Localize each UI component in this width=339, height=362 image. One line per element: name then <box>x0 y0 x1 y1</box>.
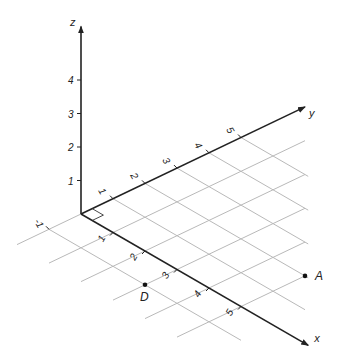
y-tick--1 <box>46 226 49 229</box>
diagram-canvas: xyz 12345-1123451234 AD <box>0 0 339 362</box>
grid-line-y-2 <box>145 183 308 277</box>
z-tick-label-4: 4 <box>68 75 74 86</box>
z-axis-label: z <box>69 16 76 28</box>
y-axis-label: y <box>308 107 316 119</box>
right-angle-marker <box>92 209 103 221</box>
grid-line-x-2 <box>81 175 305 282</box>
z-tick-label-1: 1 <box>68 176 74 187</box>
point-a-marker <box>303 274 308 279</box>
grid-line-y-4 <box>209 153 308 210</box>
z-tick-label-3: 3 <box>68 109 74 120</box>
coordinate-diagram: xyz 12345-1123451234 AD <box>0 0 339 362</box>
y-tick-label-neg1: -1 <box>32 217 46 230</box>
y-tick-4 <box>206 150 209 153</box>
xy-plane-grid <box>17 138 308 341</box>
z-tick-label-2: 2 <box>67 142 74 153</box>
x-tick-label-5: 5 <box>223 307 236 318</box>
y-tick-2 <box>142 180 145 183</box>
y-tick-label-1: 1 <box>96 186 108 196</box>
x-tick-label-3: 3 <box>159 270 172 281</box>
y-tick-1 <box>110 196 113 199</box>
grid-line-x-4 <box>145 242 305 319</box>
x-axis <box>81 214 308 345</box>
point-d-label: D <box>140 290 149 304</box>
x-tick-label-1: 1 <box>95 233 107 243</box>
y-axis <box>81 107 305 214</box>
x-axis-label: x <box>313 332 320 344</box>
y-tick-label-4: 4 <box>192 140 205 151</box>
y-tick-label-5: 5 <box>224 125 237 136</box>
point-d-marker <box>143 283 148 288</box>
axis-ticks: 12345-1123451234 <box>32 75 241 318</box>
y-tick-5 <box>238 135 241 138</box>
x-tick-label-2: 2 <box>127 251 140 263</box>
grid-line-y-3 <box>177 168 308 244</box>
y-tick-label-3: 3 <box>160 156 173 167</box>
y-tick-label-2: 2 <box>128 170 141 182</box>
grid-line-y-5 <box>241 138 308 177</box>
x-tick-label-4: 4 <box>191 288 204 299</box>
point-a-label: A <box>314 269 323 283</box>
y-tick-3 <box>174 165 177 168</box>
